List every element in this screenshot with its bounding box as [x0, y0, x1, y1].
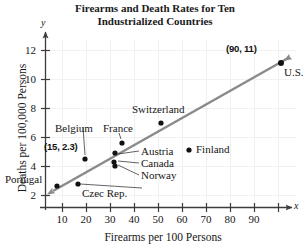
label-canada: Canada: [141, 157, 174, 169]
label-austria: Austria: [141, 145, 173, 157]
label-belgium: Belgium: [55, 122, 93, 134]
scatter-plot-figure: Firearms and Death Rates for Ten Industr…: [0, 0, 304, 251]
x-tick-label-50: 50: [147, 213, 169, 225]
x-tick-label-40: 40: [123, 213, 145, 225]
x-tick-label-60: 60: [171, 213, 193, 225]
label-us: U.S.: [284, 66, 304, 78]
y-axis-variable: y: [41, 17, 45, 28]
x-tick-label-90: 90: [243, 213, 265, 225]
x-tick-label-20: 20: [75, 213, 97, 225]
annotation-15-2-3: (15, 2.3): [44, 141, 78, 152]
point-switzerland: [158, 120, 163, 125]
point-norway: [112, 163, 117, 168]
point-france: [119, 140, 124, 145]
point-austria: [112, 150, 117, 155]
x-axis-title: Firearms per 100 Persons: [78, 231, 248, 243]
point-czec-rep: [75, 181, 80, 186]
annotation-90-11: (90, 11): [226, 43, 257, 54]
x-tick-label-30: 30: [99, 213, 121, 225]
x-axis-variable: x: [294, 200, 298, 211]
x-tick-label-10: 10: [51, 213, 73, 225]
point-finland: [186, 147, 191, 152]
point-belgium: [82, 156, 87, 161]
label-switzerland: Switzerland: [132, 103, 185, 115]
label-norway: Norway: [141, 169, 176, 181]
label-portugal: Portugal: [5, 173, 42, 185]
label-france: France: [103, 122, 133, 134]
label-czec-rep: Czec Rep.: [82, 187, 127, 199]
leader-canada: [118, 161, 139, 163]
x-tick-label-80: 80: [219, 213, 241, 225]
x-tick-label-70: 70: [195, 213, 217, 225]
label-finland: Finland: [196, 143, 230, 155]
point-portugal: [54, 183, 59, 188]
